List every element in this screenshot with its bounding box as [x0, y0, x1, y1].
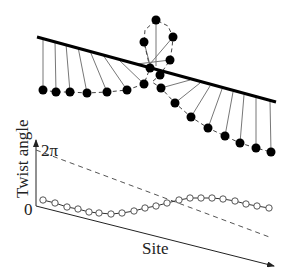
pendulum-rod: [55, 41, 56, 92]
y-axis-label: Twist angle: [13, 119, 32, 198]
spin-dot: [52, 88, 61, 97]
pendulum-rod: [175, 83, 200, 103]
spin-dot: [152, 16, 161, 25]
site-marker: [220, 196, 226, 202]
site-marker: [232, 198, 238, 204]
site-marker: [266, 205, 272, 211]
spin-dot: [103, 88, 112, 97]
spin-dot: [166, 56, 175, 65]
spin-dot: [236, 139, 245, 148]
site-marker: [243, 201, 249, 207]
site-marker: [209, 195, 215, 201]
spin-dot: [66, 88, 75, 97]
site-marker: [131, 208, 137, 214]
chain-dots: [39, 16, 276, 157]
site-marker: [75, 206, 81, 212]
pendulum-rod: [225, 92, 233, 136]
spin-dot: [187, 113, 196, 122]
pendulum-rod: [66, 44, 70, 92]
spin-dot: [140, 80, 149, 89]
spin-dot: [83, 89, 92, 98]
spin-dot: [169, 33, 178, 42]
site-marker: [108, 211, 114, 217]
pendulum-rod: [240, 95, 244, 143]
site-marker: [176, 197, 182, 203]
twist-angle-plot: 2π 0 Twist angle Site: [13, 119, 274, 266]
site-marker: [142, 205, 148, 211]
site-marker: [187, 195, 193, 201]
site-marker: [96, 210, 102, 216]
site-marker: [153, 203, 159, 209]
tick-label-2pi: 2π: [41, 141, 59, 160]
site-marker: [52, 200, 58, 206]
site-marker: [164, 200, 170, 206]
tick-label-zero: 0: [24, 200, 33, 219]
spin-dot: [171, 99, 180, 108]
spin-dot: [140, 38, 149, 47]
spin-chain-illustration: [37, 16, 276, 157]
spin-dot: [252, 144, 261, 153]
pendulum-rod: [270, 101, 271, 152]
twist-angle-diagram: 2π 0 Twist angle Site: [0, 0, 290, 278]
site-marker: [198, 195, 204, 201]
reference-dashed-line: [36, 150, 272, 238]
spin-dot: [156, 71, 165, 80]
spin-dot: [123, 86, 132, 95]
pendulum-rod: [191, 86, 210, 117]
spin-dot: [221, 132, 230, 141]
site-marker: [254, 203, 260, 209]
spin-dot: [39, 86, 48, 95]
site-marker: [64, 204, 70, 210]
pendulum-rod: [78, 47, 87, 93]
spin-dot: [267, 148, 276, 157]
pendulum-rod: [161, 80, 190, 88]
spin-dot: [204, 124, 213, 133]
pendulum-rod: [208, 89, 222, 128]
site-markers: [40, 195, 272, 217]
site-marker: [86, 209, 92, 215]
spin-dot: [157, 84, 166, 93]
spin-dot: [146, 64, 155, 73]
site-marker: [119, 210, 125, 216]
x-axis-label: Site: [142, 239, 168, 258]
site-marker: [40, 197, 46, 203]
